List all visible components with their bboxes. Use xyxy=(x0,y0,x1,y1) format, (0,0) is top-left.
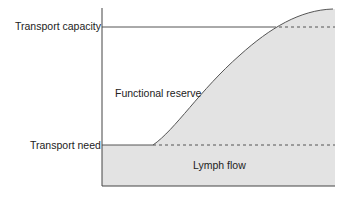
transport-need-label: Transport need xyxy=(30,140,101,151)
functional-reserve-label: Functional reserve xyxy=(115,88,201,99)
transport-capacity-label: Transport capacity xyxy=(15,21,101,32)
lymph-flow-label: Lymph flow xyxy=(193,160,246,171)
